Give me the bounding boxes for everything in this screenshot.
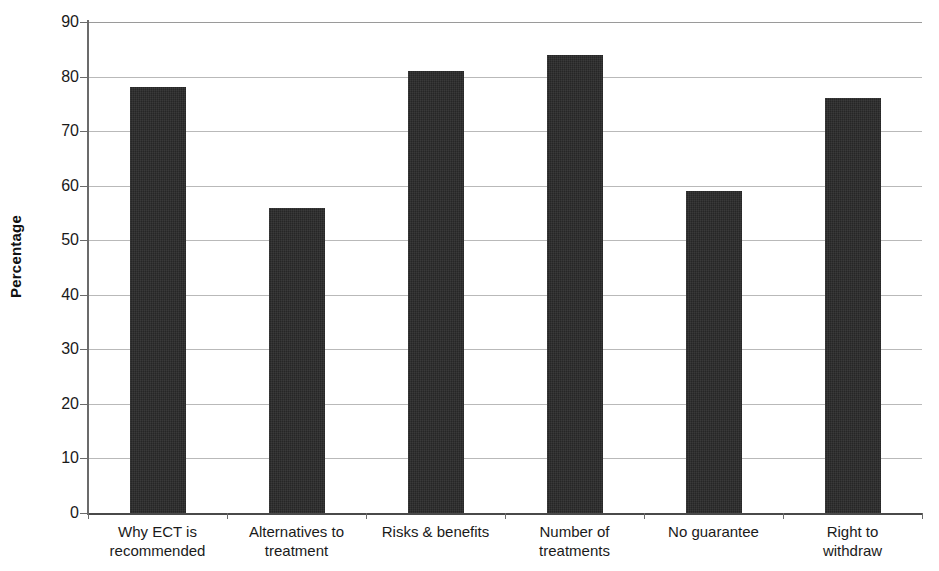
- gridline-30: [88, 349, 922, 350]
- gridline-80: [88, 77, 922, 78]
- y-tick-label: 60: [16, 177, 88, 195]
- y-tick-label: 50: [16, 231, 88, 249]
- y-tick-label: 40: [16, 286, 88, 304]
- x-axis-category-label: Alternatives totreatment: [227, 522, 366, 560]
- gridline-20: [88, 404, 922, 405]
- x-tick-mark: [366, 513, 367, 519]
- x-tick-mark: [88, 513, 89, 519]
- gridline-10: [88, 458, 922, 459]
- x-axis-category-label: Risks & benefits: [366, 522, 505, 541]
- y-axis-line: [87, 20, 89, 515]
- bar: [408, 71, 464, 513]
- x-tick-mark: [227, 513, 228, 519]
- y-tick-label: 80: [16, 68, 88, 86]
- bar: [686, 191, 742, 513]
- x-axis-category-label: No guarantee: [644, 522, 783, 541]
- x-tick-mark: [644, 513, 645, 519]
- bar: [269, 208, 325, 514]
- y-tick-label: 0: [16, 504, 88, 522]
- bar: [130, 87, 186, 513]
- bar: [825, 98, 881, 513]
- y-tick-label: 10: [16, 449, 88, 467]
- y-tick-label: 90: [16, 13, 88, 31]
- y-tick-label: 70: [16, 122, 88, 140]
- x-tick-mark: [922, 513, 923, 519]
- gridline-60: [88, 186, 922, 187]
- plot-area: [88, 22, 922, 513]
- x-axis-category-label: Number oftreatments: [505, 522, 644, 560]
- gridline-90: [88, 22, 922, 23]
- gridline-70: [88, 131, 922, 132]
- gridline-40: [88, 295, 922, 296]
- gridline-50: [88, 240, 922, 241]
- x-tick-mark: [505, 513, 506, 519]
- y-tick-label: 30: [16, 340, 88, 358]
- y-tick-label: 20: [16, 395, 88, 413]
- x-axis-category-label: Right towithdraw: [783, 522, 922, 560]
- x-tick-mark: [783, 513, 784, 519]
- x-axis-category-label: Why ECT isrecommended: [88, 522, 227, 560]
- y-axis-ticks: 9080706050403020100: [0, 0, 88, 571]
- x-axis-labels: Why ECT isrecommendedAlternatives totrea…: [88, 518, 922, 571]
- bar-chart: Percentage 9080706050403020100 Why ECT i…: [0, 0, 939, 571]
- bar: [547, 55, 603, 513]
